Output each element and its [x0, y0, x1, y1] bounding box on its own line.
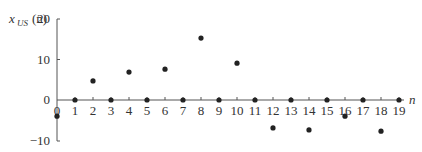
x-tick-labels: 012345678910111213141516171819 — [54, 103, 406, 118]
data-point — [342, 114, 347, 119]
x-tick-label: 6 — [162, 103, 169, 118]
data-point — [216, 97, 221, 102]
x-tick-label: 3 — [108, 103, 115, 118]
data-point — [288, 97, 293, 102]
x-tick-label: 13 — [285, 103, 298, 118]
y-tick-label: 20 — [37, 11, 50, 26]
x-tick-label: 5 — [144, 103, 151, 118]
y-tick-label: −10 — [30, 133, 50, 148]
x-tick-label: 17 — [357, 103, 371, 118]
x-tick-label: 1 — [72, 103, 79, 118]
data-point — [72, 97, 77, 102]
data-point — [378, 129, 383, 134]
data-point — [396, 97, 401, 102]
data-point — [270, 125, 275, 130]
x-tick-label: 2 — [90, 103, 97, 118]
ylabel-sub: US — [17, 18, 28, 28]
y-tick-label: 0 — [44, 92, 51, 107]
x-tick-label: 9 — [216, 103, 223, 118]
x-tick-label: 18 — [375, 103, 388, 118]
data-point — [324, 97, 329, 102]
y-tick-labels: 20100−10 — [30, 11, 50, 148]
data-point — [54, 114, 59, 119]
data-point — [234, 61, 239, 66]
x-tick-label: 19 — [393, 103, 406, 118]
x-tick-label: 4 — [126, 103, 133, 118]
x-tick-label: 12 — [267, 103, 280, 118]
data-point — [180, 97, 185, 102]
x-tick-label: 11 — [249, 103, 262, 118]
x-tick-label: 15 — [321, 103, 334, 118]
xlabel: n — [409, 92, 416, 107]
data-point — [144, 97, 149, 102]
data-point — [360, 97, 365, 102]
data-point — [162, 67, 167, 72]
ylabel-main: x — [8, 11, 15, 26]
y-tick-label: 10 — [37, 52, 50, 67]
data-point — [198, 35, 203, 40]
x-tick-label: 8 — [198, 103, 205, 118]
data-point — [252, 97, 257, 102]
data-point — [126, 69, 131, 74]
stem-chart: x US (n) 20100−10 0123456789101112131415… — [0, 0, 422, 152]
x-tick-label: 7 — [180, 103, 187, 118]
x-tick-label: 14 — [303, 103, 317, 118]
data-point — [108, 97, 113, 102]
data-points — [54, 35, 401, 133]
x-tick-label: 10 — [231, 103, 244, 118]
data-point — [306, 127, 311, 132]
data-point — [90, 78, 95, 83]
